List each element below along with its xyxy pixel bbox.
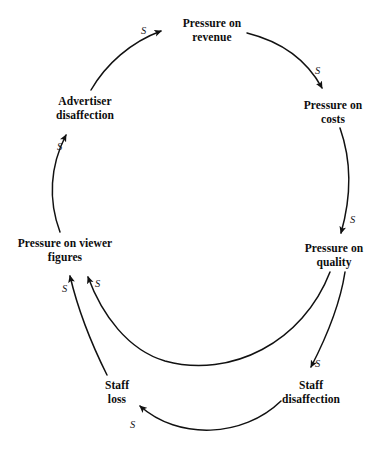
node-staff-loss: Staff loss bbox=[77, 379, 157, 406]
link-label-viewer-to-advertiser: S bbox=[57, 141, 62, 152]
node-pressure-revenue: Pressure on revenue bbox=[152, 17, 272, 44]
node-staff-disaffection: Staff disaffection bbox=[251, 379, 371, 406]
node-pressure-quality: Pressure on quality bbox=[279, 242, 389, 269]
link-label-staff-disaffection-to-staff-loss: S bbox=[130, 419, 135, 430]
link-label-quality-to-viewer: S bbox=[95, 278, 100, 289]
edge-quality-to-staff-disaffection bbox=[311, 272, 345, 367]
link-label-costs-to-quality: S bbox=[350, 214, 355, 225]
node-pressure-costs: Pressure on costs bbox=[278, 99, 388, 126]
node-pressure-viewer-figures: Pressure on viewer figures bbox=[8, 237, 122, 264]
edge-staff-loss-to-viewer bbox=[70, 276, 107, 375]
causal-loop-diagram: Pressure on revenue Pressure on costs Pr… bbox=[0, 0, 390, 458]
link-label-quality-to-staff-disaffection: S bbox=[315, 358, 320, 369]
edge-costs-to-quality bbox=[340, 128, 349, 233]
link-label-revenue-to-costs: S bbox=[315, 65, 320, 76]
edge-quality-to-viewer bbox=[88, 272, 330, 366]
node-advertiser-disaffection: Advertiser disaffection bbox=[28, 95, 142, 122]
edge-advertiser-to-revenue bbox=[91, 31, 161, 90]
link-label-advertiser-to-revenue: S bbox=[141, 25, 146, 36]
link-label-staff-loss-to-viewer: S bbox=[62, 283, 67, 294]
